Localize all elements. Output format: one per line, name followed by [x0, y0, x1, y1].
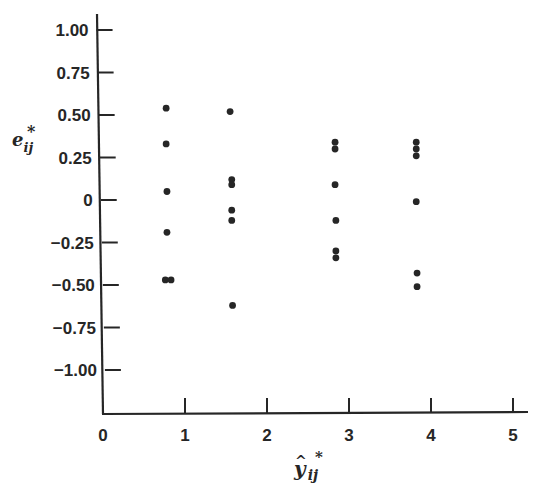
y-tick-label: 1.00	[55, 21, 88, 40]
y-tick-label: −0.50	[52, 276, 95, 295]
y-axis-title-sup: *	[27, 122, 36, 141]
y-tick-label: 0.75	[57, 64, 90, 83]
data-point	[163, 141, 170, 148]
data-points	[162, 105, 421, 309]
x-tick-label: 0	[98, 426, 107, 445]
data-point	[228, 207, 235, 214]
x-axis-title-sub: ij	[308, 467, 318, 483]
x-tick-label: 4	[426, 426, 436, 445]
data-point	[168, 277, 175, 284]
y-tick-label: −0.75	[53, 319, 96, 338]
x-axis-title-sup: *	[315, 448, 323, 466]
data-point	[413, 198, 420, 205]
axes: 1.000.750.500.250−0.25−0.50−0.75−1.00012…	[51, 14, 528, 445]
data-point	[332, 181, 339, 188]
y-axis-title: eij *	[12, 122, 36, 155]
y-tick-label: 0	[83, 191, 92, 210]
data-point	[228, 181, 235, 188]
data-point	[414, 283, 421, 290]
data-point	[413, 139, 420, 146]
x-tick-label: 2	[262, 426, 271, 445]
x-tick-label: 1	[180, 426, 189, 445]
data-point	[332, 254, 339, 261]
data-point	[332, 248, 339, 255]
y-tick-label: −0.25	[51, 234, 94, 253]
y-axis-title-sub: ij	[23, 140, 33, 155]
x-axis-title-base: y	[293, 457, 307, 481]
data-point	[413, 152, 420, 159]
data-point	[164, 188, 171, 195]
y-tick-label: 0.25	[59, 149, 92, 168]
data-point	[332, 146, 339, 153]
data-point	[413, 146, 420, 153]
data-point	[414, 270, 421, 277]
data-point	[228, 217, 235, 224]
y-tick-label: 0.50	[58, 106, 91, 125]
x-tick-label: 5	[508, 426, 517, 445]
data-point	[332, 139, 339, 146]
data-point	[229, 302, 236, 309]
data-point	[163, 105, 170, 112]
data-point	[227, 108, 234, 115]
y-axis-line	[97, 14, 103, 414]
y-tick-label: −1.00	[54, 361, 97, 380]
x-axis-title: ^ yij *	[293, 448, 323, 483]
data-point	[164, 229, 171, 236]
y-axis-title-base: e	[12, 129, 23, 150]
x-tick-label: 3	[344, 426, 353, 445]
scatter-chart: 1.000.750.500.250−0.25−0.50−0.75−1.00012…	[0, 0, 537, 488]
x-axis-line	[102, 412, 528, 414]
data-point	[332, 217, 339, 224]
